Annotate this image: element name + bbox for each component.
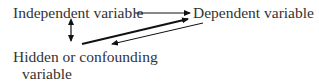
edges-layer (0, 0, 319, 83)
arrow-hidden-to-dependent (82, 19, 188, 44)
